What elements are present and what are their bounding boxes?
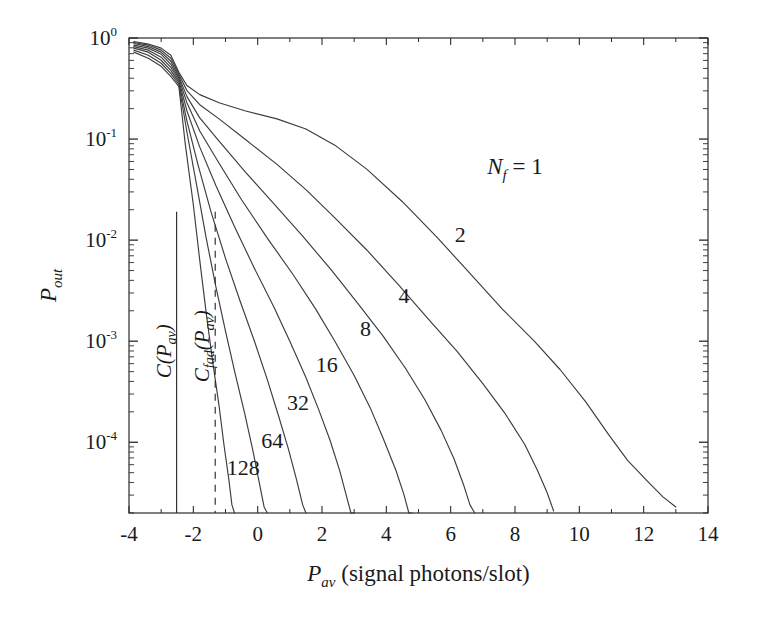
curve-label-nf-2: 2	[455, 222, 466, 247]
curve-label-nf-32: 32	[287, 390, 309, 415]
curve-label-nf-16: 16	[316, 352, 338, 377]
x-axis-title: Pav (signal photons/slot)	[306, 561, 529, 590]
x-tick-label: 12	[633, 522, 654, 546]
curve-label-nf-8: 8	[360, 316, 371, 341]
x-tick-label: 14	[698, 522, 720, 546]
x-tick-label: 2	[317, 522, 328, 546]
outage-probability-chart: -4-202468101214 10010-110-210-310-4 Nf =…	[0, 0, 758, 619]
x-tick-label: 10	[569, 522, 590, 546]
x-tick-label: -4	[120, 522, 138, 546]
x-tick-label: 8	[510, 522, 521, 546]
curve-label-nf-4: 4	[399, 283, 410, 308]
x-tick-label: -2	[185, 522, 203, 546]
x-tick-label: 4	[381, 522, 392, 546]
curve-label-nf-1: Nf = 1	[486, 154, 543, 183]
x-tick-label: 6	[445, 522, 456, 546]
curve-label-nf-128: 128	[227, 455, 260, 480]
figure-container: -4-202468101214 10010-110-210-310-4 Nf =…	[0, 0, 758, 619]
x-tick-label: 0	[252, 522, 263, 546]
curve-label-nf-64: 64	[261, 428, 283, 453]
